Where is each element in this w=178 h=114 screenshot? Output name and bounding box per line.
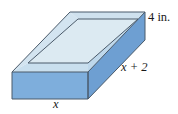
box-front-face <box>12 72 88 99</box>
dimension-label-height: 4 in. <box>148 11 170 24</box>
box-rim-back <box>70 12 145 19</box>
figure-canvas: .edge { stroke: #4A5A6A; stroke-width: 1… <box>0 0 178 114</box>
dimension-label-width: x <box>53 98 59 111</box>
dimension-label-length: x + 2 <box>121 61 147 74</box>
